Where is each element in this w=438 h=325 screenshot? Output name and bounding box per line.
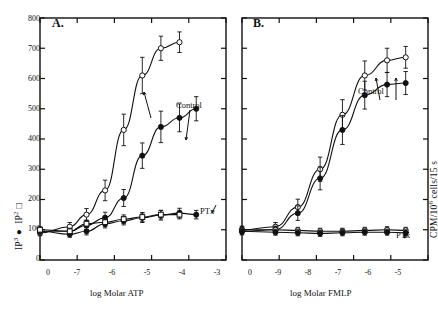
panel-b-control-arrow-up2 xyxy=(395,78,398,100)
panel-b-series-1 xyxy=(242,83,406,231)
panel-b-series-0 xyxy=(242,57,406,230)
panel-a-ptx-arrow xyxy=(212,205,216,213)
panel-b-plot xyxy=(239,18,428,260)
plot-drawing-layer xyxy=(0,0,438,325)
panel-a-plot xyxy=(37,18,226,260)
panel-a-control-arrow-up xyxy=(143,92,151,118)
panel-a-series-0 xyxy=(40,109,196,232)
figure-root: A. IP3 ● IP2 □ 800 700 600 500 400 300 2… xyxy=(0,0,438,325)
panel-a-series-1 xyxy=(40,42,180,233)
panel-b-control-arrow-up xyxy=(375,78,380,100)
panel-a-control-arrow-down xyxy=(185,110,190,140)
